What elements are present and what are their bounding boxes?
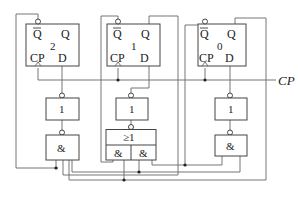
or-label: ≥1 [123, 131, 135, 143]
not-gate-0: 1 [215, 93, 247, 120]
d-label: D [58, 51, 67, 65]
ff-index-label: 1 [131, 40, 137, 52]
and-gate-0: & [215, 130, 247, 156]
d-label: D [225, 51, 234, 65]
qbar-label: Q [113, 27, 122, 41]
flip-flop-0: Q Q 0 CP D [198, 19, 246, 66]
ff-index-label: 0 [217, 40, 223, 52]
not-gate-label: 1 [59, 103, 65, 115]
cp-label: CP [110, 51, 125, 65]
qbar-label: Q [33, 27, 42, 41]
and-gate-label: & [57, 142, 66, 154]
and-label-left: & [114, 147, 123, 159]
and-or-gate-1: ≥1 & & [106, 125, 156, 161]
flip-flop-1: Q Q 1 CP D [107, 19, 160, 66]
cp-label: CP [30, 51, 45, 65]
ff-index-label: 2 [50, 40, 56, 52]
and-gate-2: & [46, 130, 79, 160]
not-gate-1: 1 [116, 93, 148, 120]
cp-label: CP [199, 51, 214, 65]
q-label: Q [61, 27, 70, 41]
qbar-inversion-bubble [203, 19, 208, 24]
clock-label: CP [278, 73, 295, 88]
q-label: Q [141, 27, 150, 41]
q-label: Q [227, 27, 236, 41]
qbar-inversion-bubble [36, 19, 41, 24]
d-label: D [140, 51, 149, 65]
and-gate-label: & [226, 140, 235, 152]
qbar-inversion-bubble [116, 19, 121, 24]
not-gate-2: 1 [46, 93, 79, 120]
flip-flop-2: Q Q 2 CP D [26, 19, 79, 66]
circuit-diagram: CP Q Q 2 CP D Q Q 1 CP D Q Q 0 CP D [0, 0, 298, 197]
qbar-label: Q [200, 27, 209, 41]
and-label-right: & [139, 147, 148, 159]
not-gate-label: 1 [228, 103, 234, 115]
not-gate-label: 1 [129, 103, 135, 115]
